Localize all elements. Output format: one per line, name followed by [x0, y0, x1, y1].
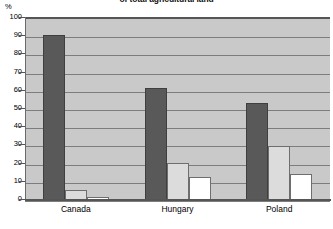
gridline-50 — [25, 110, 330, 111]
bar-poland-series-3 — [290, 174, 312, 201]
bar-canada-series-1 — [43, 35, 65, 201]
bar-poland-series-2 — [268, 146, 290, 201]
bar-hungary-series-2 — [167, 163, 189, 201]
y-axis-tick-mark-100 — [19, 17, 25, 18]
gridline-90 — [25, 37, 330, 38]
bar-chart: of total agricultural land % 10090807060… — [0, 0, 333, 229]
y-axis-tick-mark-60 — [19, 90, 25, 91]
gridline-80 — [25, 55, 330, 56]
bar-poland-series-1 — [246, 103, 268, 201]
y-axis-tick-mark-80 — [19, 53, 25, 54]
bar-hungary-series-3 — [189, 177, 211, 201]
gridline-60 — [25, 92, 330, 93]
x-axis-category-label-hungary: Hungary — [127, 204, 229, 214]
y-axis-tick-mark-0 — [19, 199, 25, 200]
y-axis-tick-mark-20 — [19, 163, 25, 164]
chart-title: of total agricultural land — [0, 0, 333, 4]
x-axis-line — [25, 199, 331, 201]
y-axis-unit-label: % — [5, 2, 12, 11]
plot-area — [25, 17, 330, 201]
gridline-40 — [25, 128, 330, 129]
y-axis-tick-mark-10 — [19, 181, 25, 182]
gridline-70 — [25, 74, 330, 75]
x-axis-category-label-poland: Poland — [228, 204, 330, 214]
y-axis-tick-mark-40 — [19, 126, 25, 127]
y-axis-line — [25, 17, 26, 199]
y-axis-tick-mark-50 — [19, 108, 25, 109]
x-axis-category-label-canada: Canada — [25, 204, 127, 214]
y-axis-tick-mark-70 — [19, 72, 25, 73]
bar-hungary-series-1 — [145, 88, 167, 201]
y-axis-tick-mark-90 — [19, 35, 25, 36]
gridline-0 — [25, 201, 330, 202]
y-axis-tick-mark-30 — [19, 144, 25, 145]
